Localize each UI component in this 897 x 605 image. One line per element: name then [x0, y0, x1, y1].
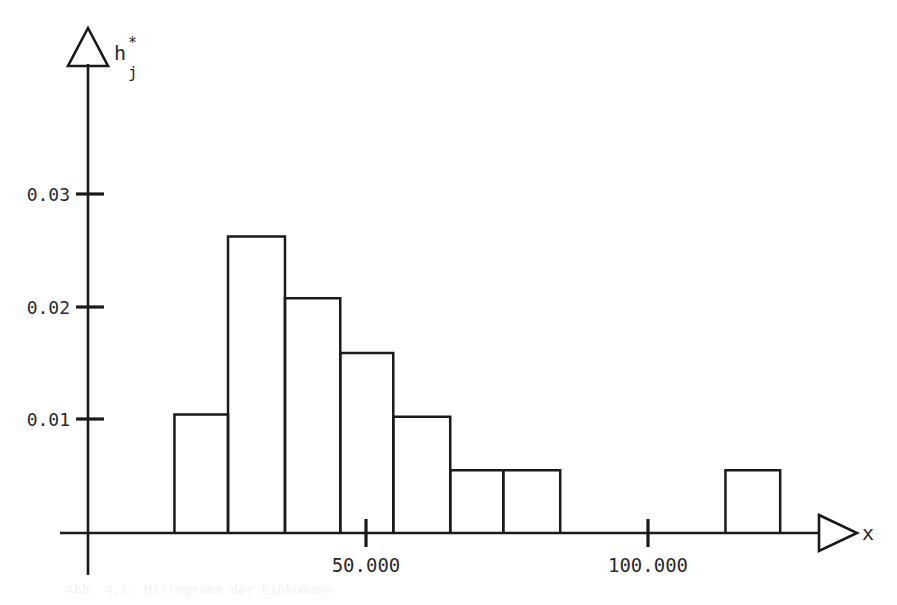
y-tick-label: 0.01	[27, 409, 70, 430]
y-tick-label: 0.03	[27, 184, 70, 205]
x-axis-label: x	[862, 521, 874, 545]
figure-caption: Abb. 4.1: Histogramm der Einkommen	[66, 582, 332, 597]
y-axis-label-superscript: *	[128, 34, 137, 52]
x-tick-label: 50.000	[332, 554, 401, 576]
y-axis-label-base: h	[114, 41, 126, 65]
histogram-figure: h * j 0.03 0.02 0.01 x 50.000 100.000 Ab…	[0, 0, 897, 605]
y-tick-label: 0.02	[27, 297, 70, 318]
y-axis-label-subscript: j	[128, 63, 138, 82]
x-tick-label: 100.000	[608, 554, 688, 576]
figure-background	[0, 0, 897, 605]
